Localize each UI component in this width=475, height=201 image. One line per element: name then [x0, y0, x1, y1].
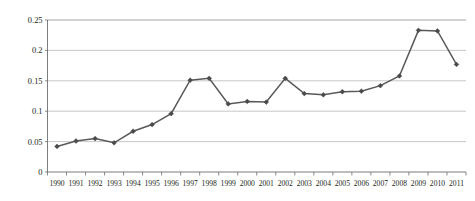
x-tick-label: 2007: [373, 179, 388, 188]
y-tick-label: 0.2: [32, 46, 42, 55]
x-tick-label: 1994: [126, 179, 141, 188]
y-tick-label: 0.25: [28, 16, 43, 25]
line-chart: 00.050.10.150.20.25199019911992199319941…: [0, 0, 475, 201]
x-tick-label: 2009: [411, 179, 426, 188]
data-point-marker: [93, 136, 98, 141]
x-tick-label: 2011: [449, 179, 464, 188]
data-point-marker: [321, 92, 326, 97]
x-tick-label: 2005: [335, 179, 350, 188]
series-line: [57, 30, 456, 146]
x-tick-label: 2008: [392, 179, 407, 188]
x-tick-label: 1997: [183, 179, 198, 188]
x-tick-label: 1991: [68, 179, 83, 188]
x-tick-label: 2003: [297, 179, 312, 188]
x-tick-label: 1993: [106, 179, 121, 188]
x-tick-label: 1999: [221, 179, 236, 188]
data-point-marker: [340, 89, 345, 94]
data-point-marker: [55, 144, 60, 149]
y-tick-label: 0.1: [32, 107, 42, 116]
y-tick-label: 0.15: [28, 77, 43, 86]
y-tick-label: 0.05: [28, 138, 43, 147]
x-tick-label: 1996: [164, 179, 179, 188]
data-point-marker: [245, 99, 250, 104]
x-tick-label: 1995: [145, 179, 160, 188]
x-tick-label: 2000: [240, 179, 255, 188]
y-tick-label: 0: [38, 168, 42, 177]
x-tick-label: 1998: [202, 179, 217, 188]
chart-canvas: 00.050.10.150.20.25199019911992199319941…: [0, 0, 475, 201]
x-tick-label: 2010: [430, 179, 445, 188]
data-point-marker: [416, 28, 421, 33]
x-tick-label: 2002: [278, 179, 293, 188]
x-tick-label: 2004: [316, 179, 331, 188]
data-point-marker: [359, 89, 364, 94]
x-tick-label: 1992: [87, 179, 102, 188]
x-tick-label: 2001: [259, 179, 274, 188]
x-tick-label: 1990: [49, 179, 64, 188]
x-tick-label: 2006: [354, 179, 369, 188]
data-point-marker: [74, 139, 79, 144]
